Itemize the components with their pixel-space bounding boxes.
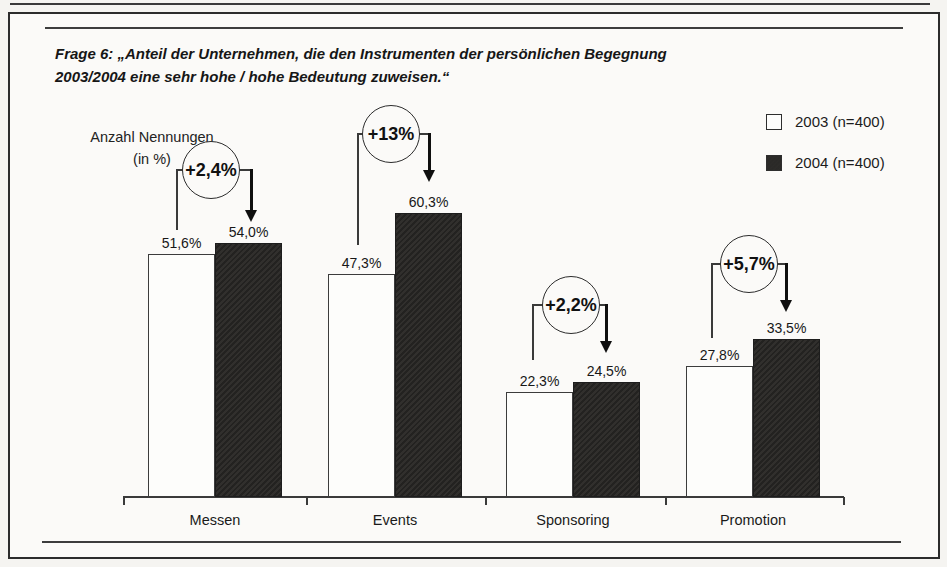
legend-label-2004: 2004 (n=400) [795, 154, 885, 171]
bar-value-label: 60,3% [388, 194, 469, 210]
arrow-line [250, 169, 253, 211]
change-label-messen: +2,4% [185, 160, 237, 181]
change-circle-messen: +2,4% [182, 141, 240, 199]
bar-2004-promotion: 33,5% [753, 339, 820, 497]
arrow-line [605, 304, 608, 342]
change-circle-events: +13% [362, 105, 420, 163]
connector-line-left [357, 133, 359, 245]
bar-group-sponsoring: 22,3% 24,5% Sponsoring [506, 382, 640, 497]
bar-value-label: 47,3% [321, 255, 402, 271]
chart-title-line2: 2003/2004 eine sehr hohe / hohe Bedeutun… [55, 65, 755, 88]
arrow-line [785, 263, 788, 301]
bar-value-label: 27,8% [679, 347, 760, 363]
legend-item-2004: 2004 (n=400) [766, 154, 885, 171]
legend: 2003 (n=400) 2004 (n=400) [766, 113, 885, 171]
arrow-down-icon [245, 210, 257, 222]
change-label-events: +13% [368, 124, 415, 145]
legend-label-2003: 2003 (n=400) [795, 113, 885, 130]
bar-2004-events: 60,3% [395, 213, 462, 497]
arrow-line [428, 133, 431, 171]
bar-2003-messen: 51,6% [148, 254, 215, 497]
axis-tick [665, 497, 667, 505]
bar-2003-events: 47,3% [328, 274, 395, 497]
legend-swatch-2004 [766, 155, 782, 171]
bar-value-label: 33,5% [746, 320, 827, 336]
legend-item-2003: 2003 (n=400) [766, 113, 885, 130]
arrow-down-icon [423, 170, 435, 182]
bar-2003-promotion: 27,8% [686, 366, 753, 497]
category-label-events: Events [295, 512, 496, 528]
connector-line-left [532, 304, 534, 360]
category-label-sponsoring: Sponsoring [473, 512, 674, 528]
axis-tick [485, 497, 487, 505]
connector-line-left [176, 169, 178, 230]
connector-line-left [711, 263, 713, 338]
footer-rule [42, 541, 901, 543]
bar-group-messen: 51,6% 54,0% Messen [148, 243, 282, 497]
legend-swatch-2003 [766, 114, 782, 130]
axis-tick [843, 497, 845, 505]
header-rule [45, 27, 903, 29]
axis-tick [123, 497, 125, 505]
change-circle-promotion: +5,7% [720, 235, 778, 293]
arrow-down-icon [780, 300, 792, 312]
change-label-sponsoring: +2,2% [545, 295, 597, 316]
bar-group-promotion: 27,8% 33,5% Promotion [686, 339, 820, 497]
bar-value-label: 54,0% [208, 224, 289, 240]
chart-title-line1: Frage 6: „Anteil der Unternehmen, die de… [55, 42, 755, 65]
bar-value-label: 24,5% [566, 363, 647, 379]
page-edge-line [10, 3, 930, 5]
arrow-down-icon [600, 341, 612, 353]
bar-2004-sponsoring: 24,5% [573, 382, 640, 497]
category-label-promotion: Promotion [653, 512, 854, 528]
axis-tick [306, 497, 308, 505]
bar-group-events: 47,3% 60,3% Events [328, 213, 462, 497]
change-circle-sponsoring: +2,2% [542, 276, 600, 334]
category-label-messen: Messen [115, 512, 316, 528]
bar-2004-messen: 54,0% [215, 243, 282, 497]
chart-title: Frage 6: „Anteil der Unternehmen, die de… [55, 42, 755, 89]
change-label-promotion: +5,7% [723, 254, 775, 275]
bar-2003-sponsoring: 22,3% [506, 392, 573, 497]
